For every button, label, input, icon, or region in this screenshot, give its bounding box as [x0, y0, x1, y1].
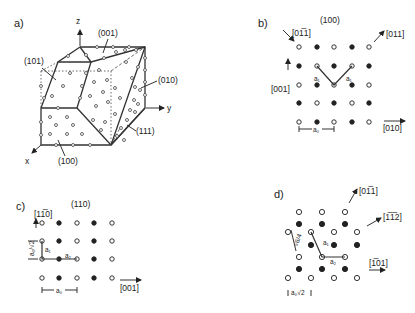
- x-axis-arrow: [32, 145, 41, 153]
- face-010-label: (010): [158, 75, 178, 85]
- filled-atom: [57, 276, 61, 280]
- face-001-edge: [58, 47, 145, 62]
- direction-label-0-11: [01̅1]: [359, 186, 378, 196]
- surface-atom: [96, 46, 99, 49]
- lattice-constant-label: a₀√2: [291, 289, 305, 296]
- filled-atom: [92, 239, 96, 243]
- surface-atom: [135, 49, 138, 52]
- surface-atom: [66, 116, 69, 119]
- surface-atom: [66, 133, 69, 136]
- direction-arrow-0-11: [349, 189, 357, 203]
- surface-atom: [40, 85, 43, 88]
- surface-atom: [85, 72, 88, 75]
- open-atom: [331, 229, 336, 234]
- surface-atom: [128, 46, 131, 49]
- surface-atom: [125, 61, 128, 64]
- filled-atom: [92, 221, 96, 225]
- surface-atom: [114, 113, 117, 116]
- panel-d-label: d): [274, 188, 284, 200]
- surface-atom: [134, 111, 137, 114]
- surface-atom: [100, 129, 103, 132]
- open-atom: [75, 276, 79, 280]
- open-atom: [40, 221, 44, 225]
- panel-c: c) (110) [11̅0] [001] a₁ a₂ a₀/√2 a₀: [16, 199, 141, 294]
- vector-label-a1: a₁: [323, 239, 330, 246]
- filled-atom: [332, 64, 336, 68]
- filled-atom: [57, 239, 61, 243]
- filled-atom: [319, 266, 324, 271]
- surface-atom: [92, 119, 95, 122]
- face-101-label: (101): [24, 56, 44, 66]
- filled-atom: [92, 257, 96, 261]
- surface-atoms: [40, 46, 147, 147]
- open-atom: [110, 257, 114, 261]
- surface-atom: [129, 109, 132, 112]
- surface-atom: [103, 57, 106, 60]
- surface-atom: [102, 91, 105, 94]
- filled-atom: [350, 120, 354, 124]
- filled-atom: [342, 266, 347, 271]
- surface-atom: [116, 135, 119, 138]
- surface-atom: [98, 69, 101, 72]
- surface-atom: [133, 99, 136, 102]
- open-atom: [296, 209, 301, 214]
- open-atom: [332, 120, 336, 124]
- surface-atom: [79, 97, 82, 100]
- filled-atom: [367, 101, 371, 105]
- surface-atom: [85, 54, 88, 57]
- open-atom: [40, 276, 44, 280]
- direction-arrow-112: [367, 218, 381, 226]
- surface-atom: [144, 94, 147, 97]
- face-001-label: (001): [98, 28, 118, 38]
- x-axis-label: x: [25, 156, 30, 166]
- direction-label-011: [011]: [386, 29, 404, 39]
- open-atom: [285, 229, 290, 234]
- filled-atom: [332, 101, 336, 105]
- lattice-constant-label: a₀: [313, 126, 320, 133]
- filled-atom: [297, 101, 301, 105]
- filled-atom: [354, 242, 359, 247]
- direction-label-0-11: [01̅1]: [292, 28, 311, 38]
- direction-label-001: [001]: [120, 283, 139, 293]
- face-111-label: (111): [136, 126, 155, 136]
- plane-label: (100): [320, 15, 340, 25]
- open-atom: [350, 101, 354, 105]
- surface-atom: [120, 127, 123, 130]
- direction-label-1-10: [11̅0]: [34, 209, 52, 219]
- filled-atom: [296, 221, 301, 226]
- direction-label-010: [010]: [383, 123, 402, 133]
- open-atom: [332, 45, 336, 49]
- filled-atom: [315, 45, 319, 49]
- face-100-edge: [77, 108, 111, 145]
- surface-atom: [72, 124, 75, 127]
- filled-atom: [315, 83, 319, 87]
- open-atom: [315, 101, 319, 105]
- open-atom: [297, 83, 301, 87]
- surface-atom: [67, 55, 70, 58]
- surface-atom: [95, 105, 98, 108]
- surface-atom: [40, 134, 43, 137]
- surface-atom: [144, 69, 147, 72]
- open-atom: [367, 120, 371, 124]
- surface-atom: [123, 139, 126, 142]
- surface-atom: [43, 97, 46, 100]
- surface-atom: [40, 121, 43, 124]
- surface-atom: [81, 85, 84, 88]
- direction-label-112: [1̅1̅2]: [383, 212, 402, 222]
- spacing-label: √6/4: [292, 233, 303, 248]
- panel-c-label: c): [16, 200, 25, 212]
- direction-arrow-011: [374, 31, 384, 42]
- crystal-figure: a) z y x (001) (101) (010): [0, 0, 415, 313]
- filled-atom: [92, 276, 96, 280]
- surface-atom: [89, 95, 92, 98]
- filled-atom: [342, 221, 347, 226]
- surface-atom: [124, 49, 127, 52]
- surface-atom: [144, 57, 147, 60]
- leader-line: [103, 39, 108, 53]
- surface-atom: [62, 85, 65, 88]
- vertical-spacing-label: a₀/√2: [28, 240, 35, 256]
- filled-atom: [331, 242, 336, 247]
- surface-atom: [104, 121, 107, 124]
- open-atom: [75, 239, 79, 243]
- surface-atom: [93, 81, 96, 84]
